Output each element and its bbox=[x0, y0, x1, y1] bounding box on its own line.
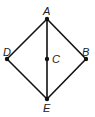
label-c: C bbox=[52, 53, 60, 65]
segment-be bbox=[47, 59, 86, 99]
segment-da bbox=[7, 19, 47, 59]
label-d: D bbox=[3, 46, 11, 58]
point-c bbox=[45, 57, 49, 61]
geometry-diagram: A B C D E bbox=[0, 0, 95, 117]
point-e bbox=[45, 97, 49, 101]
segment-ed bbox=[7, 59, 47, 99]
label-b: B bbox=[82, 46, 89, 58]
label-e: E bbox=[43, 102, 51, 114]
label-a: A bbox=[42, 5, 50, 17]
point-a bbox=[45, 17, 49, 21]
